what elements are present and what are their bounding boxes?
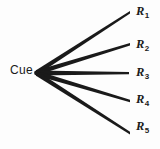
response-label-base-r3: R bbox=[136, 65, 144, 79]
response-node-label-r2: R2 bbox=[136, 38, 149, 53]
response-label-subscript-r5: 5 bbox=[145, 126, 149, 135]
response-node-label-r4: R4 bbox=[136, 93, 149, 108]
response-label-base-r1: R bbox=[136, 4, 144, 18]
response-node-label-r5: R5 bbox=[136, 120, 149, 135]
fan-diagram-canvas: Cue R1 R2 R3 R4 R5 bbox=[0, 0, 160, 149]
response-node-label-r1: R1 bbox=[136, 5, 149, 20]
response-node-label-r3: R3 bbox=[136, 66, 149, 81]
cue-node-label: Cue bbox=[10, 64, 33, 76]
response-label-base-r5: R bbox=[136, 119, 144, 133]
branch-line-r1 bbox=[36, 11, 130, 76]
response-label-subscript-r1: 1 bbox=[145, 11, 149, 20]
response-label-base-r2: R bbox=[136, 37, 144, 51]
branch-lines-group bbox=[36, 11, 130, 134]
response-label-subscript-r2: 2 bbox=[145, 44, 149, 53]
branch-line-r4 bbox=[36, 70, 130, 102]
cue-vertex-node bbox=[34, 71, 39, 76]
response-label-subscript-r3: 3 bbox=[145, 72, 149, 81]
response-label-subscript-r4: 4 bbox=[145, 99, 149, 108]
response-label-base-r4: R bbox=[136, 92, 144, 106]
branch-line-r5 bbox=[36, 70, 130, 134]
